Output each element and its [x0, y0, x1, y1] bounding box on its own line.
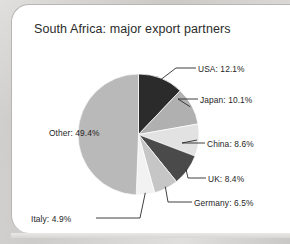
slice-label-uk: UK: 8.4% — [208, 174, 244, 184]
slice-label-other: Other: 49.4% — [49, 128, 100, 138]
leader-line-italy — [96, 193, 145, 218]
leader-line-uk — [186, 169, 206, 178]
slice-label-china: China: 8.6% — [207, 139, 254, 149]
slice-label-germany: Germany: 6.5% — [194, 198, 253, 208]
pie-chart: USA: 12.1% Japan: 10.1% China: 8.6% UK: … — [0, 0, 290, 244]
slice-label-usa: USA: 12.1% — [198, 64, 245, 74]
leader-line-usa — [160, 68, 196, 80]
leader-line-germany — [165, 187, 192, 202]
slice-label-japan: Japan: 10.1% — [200, 95, 252, 105]
slice-label-italy: Italy: 4.9% — [31, 214, 71, 224]
